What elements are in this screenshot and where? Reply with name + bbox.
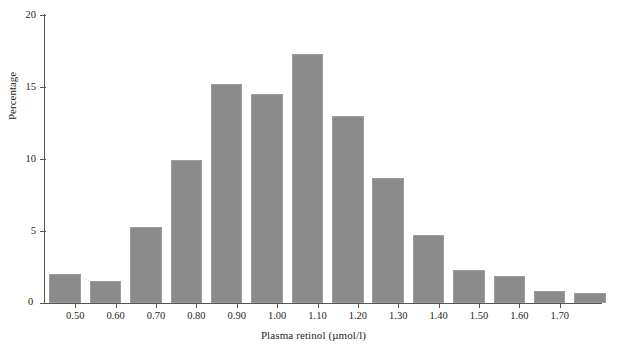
x-axis-tick-label: 1.40: [429, 311, 447, 322]
x-axis-tick-label: 1.00: [268, 311, 286, 322]
x-axis-tick: [519, 303, 520, 308]
x-axis-tick: [398, 303, 399, 308]
clipped-title-text: [0, 0, 627, 2]
bar: [211, 84, 242, 303]
y-axis-tick-label: 20: [18, 10, 36, 21]
x-axis-tick-label: 0.70: [147, 311, 165, 322]
x-axis-tick-label: 0.60: [106, 311, 124, 322]
bar: [130, 227, 161, 303]
y-axis-tick: [40, 303, 46, 304]
bar: [49, 274, 80, 303]
bar: [372, 178, 403, 303]
x-axis-tick-label: 1.70: [551, 311, 569, 322]
x-axis-tick-label: 1.20: [349, 311, 367, 322]
bar: [453, 270, 484, 303]
x-axis-tick: [560, 303, 561, 308]
bar: [413, 235, 444, 303]
x-axis-title: Plasma retinol (µmol/l): [0, 329, 627, 341]
y-axis-tick-label: 15: [18, 82, 36, 93]
bar: [171, 160, 202, 303]
bar: [574, 293, 605, 303]
bar: [90, 281, 121, 303]
y-axis-title: Percentage: [6, 72, 18, 120]
bar: [292, 54, 323, 303]
bar: [534, 291, 565, 303]
x-axis-tick: [75, 303, 76, 308]
x-axis-tick: [318, 303, 319, 308]
x-axis-tick-label: 1.60: [510, 311, 528, 322]
x-axis-tick: [277, 303, 278, 308]
x-axis-tick: [358, 303, 359, 308]
y-axis-tick-label: 10: [18, 154, 36, 165]
x-axis-tick-label: 0.80: [187, 311, 205, 322]
x-axis-tick-label: 0.50: [66, 311, 84, 322]
x-axis-tick: [156, 303, 157, 308]
x-axis-tick-label: 1.10: [308, 311, 326, 322]
x-axis-tick: [196, 303, 197, 308]
x-axis-tick: [116, 303, 117, 308]
bar: [332, 116, 363, 303]
histogram-figure: 5101520 0 0.500.600.700.800.901.001.101.…: [0, 0, 627, 353]
bar: [251, 94, 282, 303]
bar: [494, 276, 525, 303]
plot-area: [45, 15, 590, 303]
x-axis-tick: [439, 303, 440, 308]
x-axis-tick: [479, 303, 480, 308]
x-axis-tick: [237, 303, 238, 308]
x-axis-tick-label: 1.30: [389, 311, 407, 322]
x-axis-tick-label: 1.50: [470, 311, 488, 322]
x-axis-line: [44, 303, 602, 304]
y-origin-label: 0: [28, 297, 33, 308]
x-axis-tick-label: 0.90: [228, 311, 246, 322]
y-axis-tick-label: 5: [18, 226, 36, 237]
